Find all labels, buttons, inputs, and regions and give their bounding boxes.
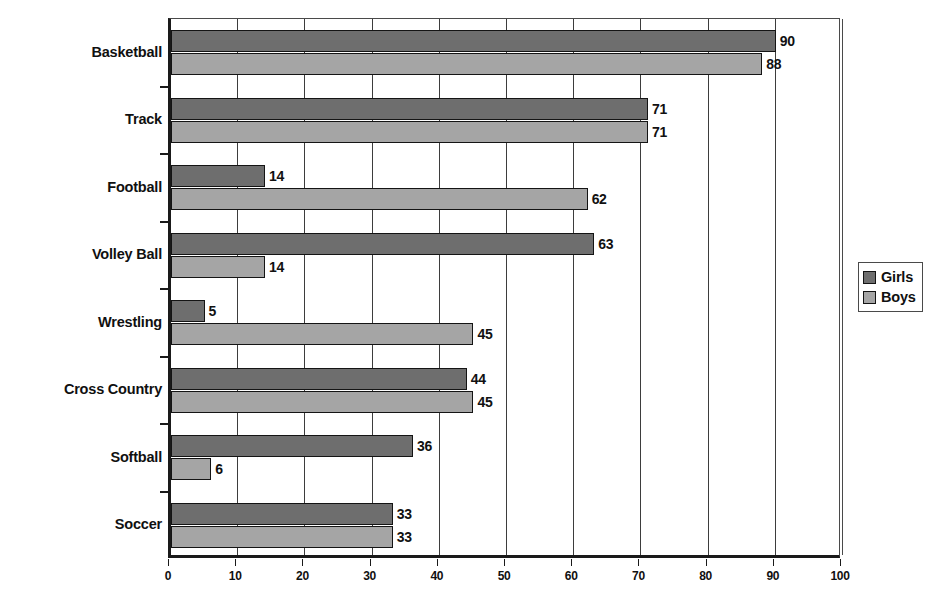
category-axis-tick bbox=[160, 221, 169, 223]
bar-boys-softball bbox=[171, 458, 211, 480]
x-tick-label: 60 bbox=[565, 570, 578, 582]
plot-area: 908871711462631454544453663333 bbox=[168, 18, 840, 558]
category-label-track: Track bbox=[4, 112, 162, 127]
category-axis-tick bbox=[160, 153, 169, 155]
bar-value-label: 71 bbox=[652, 102, 667, 116]
x-tick-mark bbox=[235, 559, 236, 566]
gridline bbox=[775, 19, 776, 555]
bar-girls-softball bbox=[171, 435, 413, 457]
category-axis-labels: BasketballTrackFootballVolley BallWrestl… bbox=[0, 18, 162, 558]
bar-value-label: 44 bbox=[471, 372, 486, 386]
bar-girls-volley-ball bbox=[171, 233, 594, 255]
x-tick-mark bbox=[773, 559, 774, 566]
legend-item-boys: Boys bbox=[863, 287, 916, 307]
x-tick-label: 40 bbox=[430, 570, 443, 582]
gridline bbox=[842, 19, 843, 555]
bar-value-label: 45 bbox=[477, 327, 492, 341]
x-tick-mark bbox=[437, 559, 438, 566]
bar-girls-track bbox=[171, 98, 648, 120]
x-tick-label: 0 bbox=[165, 570, 171, 582]
category-axis-tick bbox=[160, 288, 169, 290]
x-tick-label: 10 bbox=[229, 570, 242, 582]
bar-value-label: 71 bbox=[652, 125, 667, 139]
x-tick-label: 50 bbox=[498, 570, 511, 582]
bar-girls-soccer bbox=[171, 503, 393, 525]
legend-item-girls: Girls bbox=[863, 267, 916, 287]
category-axis-tick bbox=[160, 423, 169, 425]
bar-value-label: 63 bbox=[598, 237, 613, 251]
bar-boys-wrestling bbox=[171, 323, 473, 345]
category-axis-tick bbox=[160, 491, 169, 493]
x-tick-mark bbox=[706, 559, 707, 566]
bar-girls-football bbox=[171, 165, 265, 187]
bar-boys-football bbox=[171, 188, 588, 210]
x-tick-mark bbox=[302, 559, 303, 566]
bar-value-label: 33 bbox=[397, 507, 412, 521]
legend-swatch-icon bbox=[863, 271, 876, 284]
x-tick-label: 30 bbox=[363, 570, 376, 582]
category-label-wrestling: Wrestling bbox=[4, 315, 162, 330]
legend-label: Boys bbox=[881, 290, 916, 305]
category-label-volley-ball: Volley Ball bbox=[4, 247, 162, 262]
bar-value-label: 36 bbox=[417, 439, 432, 453]
category-label-football: Football bbox=[4, 180, 162, 195]
bar-value-label: 90 bbox=[780, 34, 795, 48]
x-tick-label: 70 bbox=[632, 570, 645, 582]
category-label-basketball: Basketball bbox=[4, 45, 162, 60]
chart-legend: GirlsBoys bbox=[858, 262, 923, 312]
bar-boys-basketball bbox=[171, 53, 762, 75]
bar-girls-basketball bbox=[171, 30, 776, 52]
bar-value-label: 6 bbox=[215, 462, 223, 476]
bar-value-label: 62 bbox=[592, 192, 607, 206]
x-tick-mark bbox=[840, 559, 841, 566]
x-tick-mark bbox=[168, 559, 169, 566]
x-tick-mark bbox=[571, 559, 572, 566]
bar-boys-volley-ball bbox=[171, 256, 265, 278]
bar-boys-cross-country bbox=[171, 391, 473, 413]
gridline bbox=[708, 19, 709, 555]
bar-value-label: 14 bbox=[269, 169, 284, 183]
bar-girls-cross-country bbox=[171, 368, 467, 390]
clipped-chart-title bbox=[150, 0, 430, 5]
category-label-soccer: Soccer bbox=[4, 517, 162, 532]
x-tick-mark bbox=[638, 559, 639, 566]
bar-value-label: 45 bbox=[477, 395, 492, 409]
x-tick-mark bbox=[504, 559, 505, 566]
bar-value-label: 88 bbox=[766, 57, 781, 71]
x-tick-mark bbox=[370, 559, 371, 566]
x-tick-label: 90 bbox=[766, 570, 779, 582]
legend-swatch-icon bbox=[863, 291, 876, 304]
category-label-softball: Softball bbox=[4, 450, 162, 465]
bar-chart: BasketballTrackFootballVolley BallWrestl… bbox=[0, 0, 944, 602]
x-axis: 0102030405060708090100 bbox=[168, 559, 840, 599]
bar-value-label: 14 bbox=[269, 260, 284, 274]
category-axis-tick bbox=[160, 86, 169, 88]
x-tick-label: 100 bbox=[830, 570, 849, 582]
bar-value-label: 33 bbox=[397, 530, 412, 544]
x-tick-label: 20 bbox=[296, 570, 309, 582]
category-axis-tick bbox=[160, 356, 169, 358]
category-label-cross-country: Cross Country bbox=[4, 382, 162, 397]
bar-girls-wrestling bbox=[171, 300, 205, 322]
legend-label: Girls bbox=[881, 270, 913, 285]
bar-boys-soccer bbox=[171, 526, 393, 548]
bar-value-label: 5 bbox=[209, 304, 217, 318]
x-tick-label: 80 bbox=[699, 570, 712, 582]
bar-boys-track bbox=[171, 121, 648, 143]
